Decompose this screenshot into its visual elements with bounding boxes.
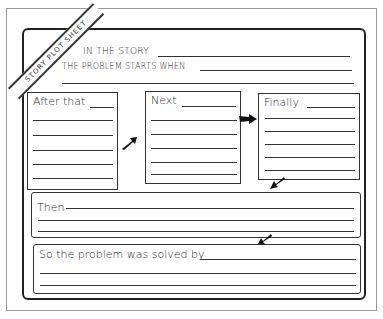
write-line[interactable]	[38, 220, 354, 221]
write-line[interactable]	[33, 120, 113, 121]
after-that-box: After that	[27, 92, 118, 190]
write-line[interactable]	[265, 131, 355, 132]
write-line[interactable]	[66, 208, 354, 209]
write-line[interactable]	[33, 150, 113, 151]
next-box: Next	[145, 91, 241, 184]
write-line[interactable]	[38, 231, 354, 232]
write-line[interactable]	[40, 285, 356, 286]
write-line[interactable]	[182, 106, 236, 107]
intro-line2-label: THE PROBLEM STARTS WHEN	[62, 62, 186, 71]
solved-label: So the problem was solved by	[39, 248, 205, 261]
intro-line1-label: IN THE STORY	[83, 46, 149, 56]
finally-box: Finally	[258, 93, 360, 180]
write-line[interactable]	[151, 162, 237, 163]
solved-box: So the problem was solved by	[33, 244, 361, 294]
write-line[interactable]	[151, 134, 237, 135]
write-line[interactable]	[151, 120, 237, 121]
write-line[interactable]	[200, 259, 356, 260]
then-box: Then	[31, 192, 361, 238]
write-line[interactable]	[265, 170, 355, 171]
arrow-icon	[268, 176, 286, 190]
then-label: Then	[37, 201, 64, 214]
write-line[interactable]	[33, 178, 113, 179]
write-line[interactable]	[265, 157, 355, 158]
finally-label: Finally	[264, 96, 299, 109]
arrow-icon	[120, 135, 138, 151]
intro-line1-blank[interactable]	[158, 56, 350, 57]
after-that-label: After that	[33, 95, 85, 108]
write-line[interactable]	[40, 273, 356, 274]
next-label: Next	[151, 94, 177, 107]
write-line[interactable]	[90, 107, 114, 108]
intro-line2-blank[interactable]	[200, 70, 352, 71]
write-line[interactable]	[307, 107, 355, 108]
write-line[interactable]	[33, 164, 113, 165]
write-line[interactable]	[33, 135, 113, 136]
write-line[interactable]	[151, 148, 237, 149]
intro-line3-blank[interactable]	[62, 83, 354, 84]
write-line[interactable]	[151, 174, 237, 175]
write-line[interactable]	[265, 144, 355, 145]
write-line[interactable]	[265, 118, 355, 119]
arrow-icon	[238, 113, 258, 125]
